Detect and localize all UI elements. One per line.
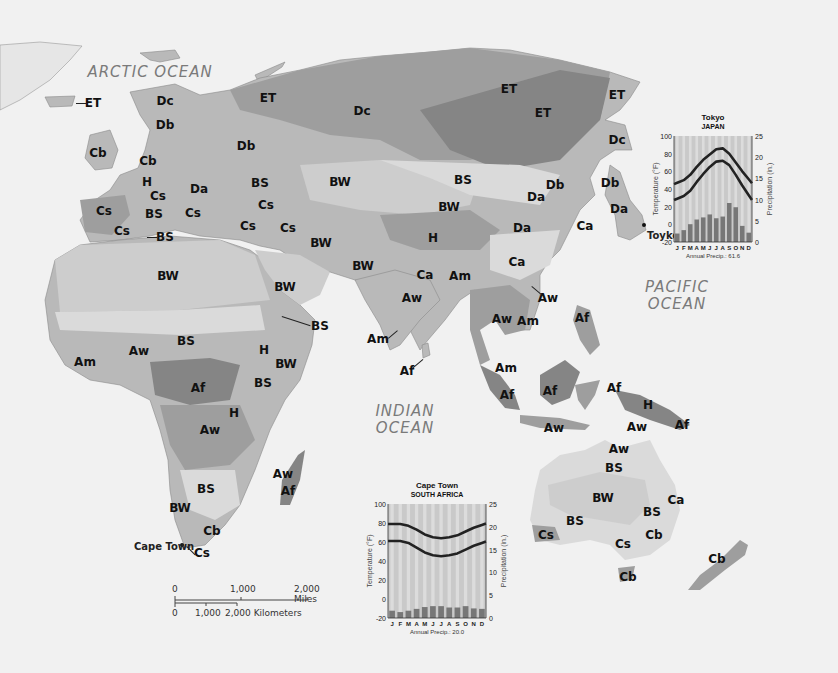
climate-label-da: Da [190,183,208,195]
climate-label-et: ET [535,107,551,119]
precip-bar [681,230,686,242]
climate-label-bw: BW [275,358,297,370]
leader-line-bs-tunisia [147,237,157,238]
y2-tick: 5 [755,218,759,225]
y2-axis-title: Precipitation (in.) [500,535,508,588]
precip-bar [701,217,706,242]
ocean-label-pacific: PACIFIC OCEAN [645,279,709,313]
climate-label-cs: Cs [280,222,296,234]
y2-tick: 10 [755,197,763,204]
climate-label-af: Af [281,485,296,497]
climate-label-bw: BW [310,237,332,249]
chart-title: Cape Town [416,481,458,490]
climate-label-ca: Ca [417,269,434,281]
chart-title: Tokyo [702,113,725,122]
precip-bar [746,233,751,242]
climate-label-am: Am [74,356,96,368]
climate-label-cb: Cb [89,147,106,159]
climate-label-bs: BS [197,483,215,495]
precip-bar [430,606,436,618]
scale-miles-2000: 2,000 Miles [294,584,340,604]
annual-precip: Annual Precip.: 61.6 [686,253,741,259]
climate-label-cs: Cs [538,529,554,541]
climate-label-bw: BW [352,260,374,272]
x-tick: F [398,621,402,627]
scale-km-0: 0 [172,608,178,618]
climograph-cape-town: Cape TownSOUTH AFRICA100806040200-202520… [362,480,512,640]
x-tick: J [715,245,718,251]
precip-bar [414,609,420,618]
y-tick: 40 [378,558,386,565]
x-tick: J [439,621,442,627]
climate-label-ca: Ca [668,494,685,506]
y2-axis-title: Precipitation (in.) [766,163,774,216]
precip-bar [688,224,693,242]
x-tick: D [480,621,485,627]
climate-label-dc: Dc [156,95,173,107]
precip-bar [694,220,699,242]
climate-label-db: Db [601,177,620,189]
climate-label-bw: BW [274,281,296,293]
scale-miles-0: 0 [172,584,178,594]
climate-label-af: Af [607,382,622,394]
climate-label-et: ET [85,97,101,109]
y2-tick: 25 [489,501,497,508]
climate-label-cs: Cs [258,199,274,211]
climate-label-aw: Aw [129,345,149,357]
precip-bar [438,606,444,618]
x-tick: J [676,245,679,251]
precip-bar [463,606,469,618]
climate-label-db: Db [156,119,175,131]
climate-label-cb: Cb [203,525,220,537]
precip-bar [471,608,477,618]
x-tick: S [727,245,731,251]
climate-label-cb: Cb [619,571,636,583]
climate-label-bs: BS [566,515,584,527]
climate-label-bw: BW [438,201,460,213]
x-tick: M [701,245,706,251]
y2-tick: 20 [489,524,497,531]
precip-bar [406,611,412,618]
climate-label-h: H [428,232,438,244]
x-tick: A [721,245,726,251]
scale-bar: 0 1,000 2,000 Miles 0 1,000 2,000 Kilome… [170,586,340,620]
climate-label-cb: Cb [708,553,725,565]
y2-tick: 20 [755,154,763,161]
iceland [45,96,75,107]
climate-label-am: Am [367,333,389,345]
y-tick: 20 [378,577,386,584]
climate-label-db: Db [237,140,256,152]
climate-label-cs: Cs [615,538,631,550]
precip-bar [707,214,712,242]
x-tick: A [414,621,419,627]
y-tick: 0 [382,596,386,603]
climate-label-h: H [259,344,269,356]
y-tick: -20 [662,239,672,246]
x-tick: J [708,245,711,251]
climate-label-aw: Aw [200,424,220,436]
climate-label-aw: Aw [544,422,564,434]
climate-label-dc: Dc [353,105,370,117]
x-tick: N [740,245,744,251]
climate-label-am: Am [449,270,471,282]
climate-label-ca: Ca [577,220,594,232]
climate-label-bw: BW [592,492,614,504]
x-tick: O [463,621,468,627]
climate-label-et: ET [609,89,625,101]
y2-tick: 10 [489,569,497,576]
precip-bar [675,234,680,242]
climate-label-bs: BS [605,462,623,474]
climate-label-db: Db [546,179,565,191]
climate-label-am: Am [495,362,517,374]
climate-label-bs: BS [643,506,661,518]
climate-label-af: Af [191,382,206,394]
climate-label-cs: Cs [150,190,166,202]
x-tick: N [472,621,476,627]
precip-bar [446,608,452,618]
y2-tick: 25 [755,133,763,140]
ocean-label-arctic: ARCTIC OCEAN [87,64,212,81]
chart-subtitle: JAPAN [701,123,724,130]
climate-label-cs: Cs [194,547,210,559]
x-tick: M [406,621,411,627]
climate-label-bw: BW [157,270,179,282]
